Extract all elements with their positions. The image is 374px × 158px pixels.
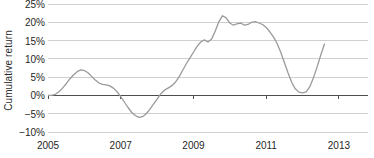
x-axis-tick-label: 2013 — [328, 140, 350, 151]
y-axis-tick-label: −10% — [19, 127, 45, 138]
y-axis-title: Cumulative return — [3, 30, 14, 111]
plot-svg — [48, 0, 368, 140]
x-axis-tick-label: 2005 — [37, 140, 59, 151]
cumulative-return-chart: Cumulative return 25%20%15%10%5%0%−5%−10… — [0, 0, 374, 158]
x-axis-tick-label: 2009 — [182, 140, 204, 151]
y-axis-tick-label: 15% — [25, 35, 45, 46]
y-axis-tick-label: 10% — [25, 53, 45, 64]
x-axis-tick-label: 2007 — [110, 140, 132, 151]
y-axis-tick-label: 0% — [31, 90, 45, 101]
y-axis-tick-label: 25% — [25, 0, 45, 10]
y-axis-tick-labels: 25%20%15%10%5%0%−5%−10% — [14, 0, 48, 140]
series-line — [48, 16, 324, 118]
y-axis-tick-label: 5% — [31, 72, 45, 83]
x-axis-tick-label: 2011 — [255, 140, 277, 151]
y-axis-tick-label: −5% — [25, 108, 45, 119]
plot-area — [48, 0, 368, 140]
y-axis-tick-label: 20% — [25, 17, 45, 28]
x-axis-tick-labels: 20052007200920112013 — [0, 138, 374, 158]
